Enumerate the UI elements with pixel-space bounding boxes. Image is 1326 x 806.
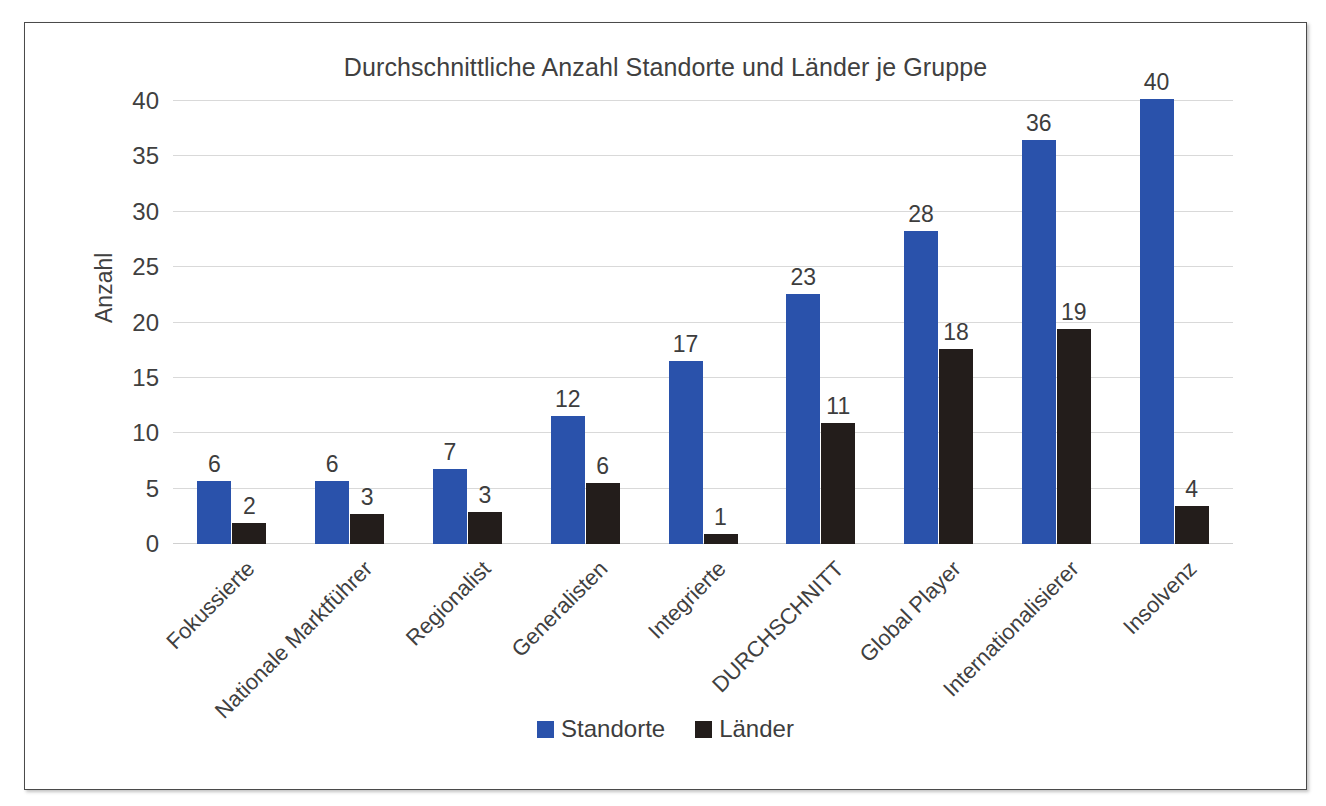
bar-group: 3619 xyxy=(1022,101,1091,544)
bar-standorte[interactable]: 23 xyxy=(786,294,820,544)
legend-label: Standorte xyxy=(561,715,665,743)
bar-länder[interactable]: 1 xyxy=(704,534,738,544)
bar-länder[interactable]: 3 xyxy=(468,512,502,544)
y-axis-tick: 5 xyxy=(146,475,159,503)
x-axis-tick: Regionalist xyxy=(400,556,495,651)
bar-group: 171 xyxy=(669,101,738,544)
bar-value-label: 3 xyxy=(361,486,374,509)
bar-group: 62 xyxy=(197,101,266,544)
y-axis-title: Anzahl xyxy=(91,253,118,323)
bar-value-label: 7 xyxy=(444,441,457,464)
bar-länder[interactable]: 18 xyxy=(939,349,973,544)
bar-länder[interactable]: 4 xyxy=(1175,506,1209,544)
bar-group: 73 xyxy=(433,101,502,544)
bar-länder[interactable]: 2 xyxy=(232,523,266,544)
bar-value-label: 23 xyxy=(790,266,816,289)
bar-value-label: 12 xyxy=(555,388,581,411)
bar-group: 63 xyxy=(315,101,384,544)
legend-item[interactable]: Standorte xyxy=(537,715,665,743)
bar-standorte[interactable]: 6 xyxy=(315,481,349,544)
y-axis-tick: 20 xyxy=(132,309,159,337)
chart-frame: Durchschnittliche Anzahl Standorte und L… xyxy=(24,22,1307,790)
bar-value-label: 11 xyxy=(826,395,850,418)
bar-standorte[interactable]: 7 xyxy=(433,469,467,544)
bar-group: 126 xyxy=(551,101,620,544)
legend-swatch-icon xyxy=(537,721,554,738)
bar-länder[interactable]: 19 xyxy=(1057,329,1091,544)
bar-länder[interactable]: 3 xyxy=(350,514,384,544)
bar-value-label: 6 xyxy=(596,455,609,478)
bar-value-label: 17 xyxy=(673,333,699,356)
x-axis-tick: Generalisten xyxy=(507,556,614,663)
legend-swatch-icon xyxy=(695,721,712,738)
bar-standorte[interactable]: 28 xyxy=(904,231,938,544)
bar-value-label: 18 xyxy=(943,321,969,344)
bar-länder[interactable]: 6 xyxy=(586,483,620,544)
y-axis-tick: 35 xyxy=(132,142,159,170)
y-axis-tick: 0 xyxy=(146,530,159,558)
x-axis-tick: Integrierte xyxy=(643,556,731,644)
bar-value-label: 4 xyxy=(1185,478,1198,501)
bar-group: 404 xyxy=(1140,101,1209,544)
x-axis-tick: Insolvenz xyxy=(1118,556,1202,640)
bar-group: 2818 xyxy=(904,101,973,544)
chart-legend: StandorteLänder xyxy=(25,715,1306,743)
y-axis-tick: 30 xyxy=(132,198,159,226)
bar-value-label: 6 xyxy=(208,453,221,476)
y-axis-tick: 25 xyxy=(132,253,159,281)
bar-standorte[interactable]: 40 xyxy=(1140,99,1174,544)
x-axis-tick: Fokussierte xyxy=(161,556,260,655)
bar-value-label: 6 xyxy=(326,453,339,476)
bar-value-label: 19 xyxy=(1061,301,1087,324)
bar-value-label: 2 xyxy=(243,495,256,518)
chart-title: Durchschnittliche Anzahl Standorte und L… xyxy=(25,53,1306,82)
legend-label: Länder xyxy=(719,715,794,743)
y-axis-tick: 15 xyxy=(132,364,159,392)
bar-value-label: 28 xyxy=(908,203,934,226)
legend-item[interactable]: Länder xyxy=(695,715,794,743)
bar-standorte[interactable]: 6 xyxy=(197,481,231,544)
y-axis-tick: 40 xyxy=(132,87,159,115)
bar-value-label: 36 xyxy=(1026,112,1052,135)
bar-value-label: 1 xyxy=(714,506,727,529)
bar-standorte[interactable]: 12 xyxy=(551,416,585,544)
y-axis-tick: 10 xyxy=(132,419,159,447)
bar-länder[interactable]: 11 xyxy=(821,423,855,544)
bar-standorte[interactable]: 17 xyxy=(669,361,703,544)
plot-area: 0510152025303540 62637312617123112818361… xyxy=(173,101,1233,544)
x-axis-tick: Global Player xyxy=(855,556,967,668)
bar-value-label: 3 xyxy=(479,484,492,507)
bar-group: 2311 xyxy=(786,101,855,544)
bar-standorte[interactable]: 36 xyxy=(1022,140,1056,544)
bar-value-label: 40 xyxy=(1144,71,1170,94)
